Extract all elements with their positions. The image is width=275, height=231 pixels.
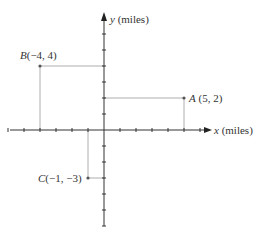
point-b-label: B(−4, 4) [20, 49, 57, 62]
point-b-marker [38, 64, 41, 67]
coordinate-plane: y (miles) x (miles) A (5, 2) B(−4, 4) C(… [0, 0, 275, 231]
x-axis-label: x (miles) [213, 124, 253, 137]
point-a-label: A (5, 2) [188, 92, 223, 105]
y-axis-unit: (miles) [115, 13, 149, 26]
point-a-coords: (5, 2) [196, 92, 223, 105]
guide-lines [40, 66, 184, 178]
y-axis-label: y (miles) [109, 13, 149, 26]
point-c-label: C(−1, −3) [38, 172, 82, 185]
x-axis-unit: (miles) [219, 124, 253, 137]
point-b-coords: (−4, 4) [27, 49, 57, 62]
x-axis [8, 128, 205, 132]
point-c-marker [86, 176, 89, 179]
x-axis-arrow-icon [204, 127, 212, 133]
y-axis-arrow-icon [101, 12, 107, 21]
point-c-coords: (−1, −3) [45, 172, 82, 185]
y-axis [102, 20, 106, 226]
point-a-marker [182, 96, 185, 99]
